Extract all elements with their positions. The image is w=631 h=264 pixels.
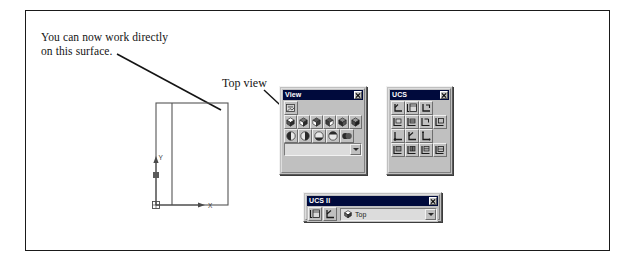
ucs-toolbar-inner: UCS bbox=[388, 88, 451, 173]
ucs2-toolbar-body: Top bbox=[307, 206, 438, 222]
view-ucs-icon[interactable] bbox=[433, 115, 447, 129]
view-combo[interactable] bbox=[284, 143, 362, 156]
ucs-row-4 bbox=[391, 143, 448, 157]
display-ucs-dialog-icon[interactable] bbox=[308, 207, 322, 221]
ucs-toolbar-body bbox=[390, 100, 449, 158]
ucs-previous-icon[interactable] bbox=[419, 101, 433, 115]
x-axis-rotate-ucs-icon[interactable] bbox=[391, 143, 405, 157]
origin-ucs-icon[interactable] bbox=[391, 129, 405, 143]
view-toolbar-body bbox=[283, 100, 363, 157]
cad-drawing-canvas: Y X bbox=[140, 96, 250, 216]
bottom-view-icon[interactable] bbox=[297, 115, 310, 129]
ucs2-toolbar-inner: UCS II bbox=[305, 194, 440, 220]
view-row-standard-views bbox=[284, 115, 362, 129]
nw-isometric-icon[interactable] bbox=[326, 129, 340, 143]
close-icon[interactable] bbox=[354, 91, 362, 99]
object-ucs-icon[interactable] bbox=[405, 115, 419, 129]
ne-isometric-icon[interactable] bbox=[312, 129, 326, 143]
ucs-preset-value: Top bbox=[353, 209, 425, 220]
axis-y-label: Y bbox=[159, 154, 164, 161]
display-ucs-dialog-icon[interactable] bbox=[405, 101, 419, 115]
ucs-preset-combo[interactable]: Top bbox=[340, 208, 437, 221]
top-view-icon[interactable] bbox=[284, 115, 297, 129]
named-views-icon[interactable] bbox=[284, 101, 298, 115]
ucs-toolbar-titlebar[interactable]: UCS bbox=[390, 90, 449, 100]
ucs2-toolbar[interactable]: UCS II bbox=[303, 192, 442, 222]
right-view-icon[interactable] bbox=[323, 115, 336, 129]
sw-isometric-icon[interactable] bbox=[284, 129, 298, 143]
camera-icon[interactable] bbox=[340, 129, 354, 143]
view-row-named-views bbox=[284, 101, 362, 115]
ucs2-toolbar-titlebar[interactable]: UCS II bbox=[307, 196, 438, 206]
chevron-down-icon[interactable] bbox=[425, 209, 436, 220]
se-isometric-icon[interactable] bbox=[298, 129, 312, 143]
axis-x-label: X bbox=[208, 202, 213, 209]
move-ucs-origin-icon[interactable] bbox=[323, 207, 337, 221]
ucs-toolbar[interactable]: UCS bbox=[386, 86, 453, 175]
view-toolbar-inner: View bbox=[281, 88, 365, 173]
left-view-icon[interactable] bbox=[310, 115, 323, 129]
z-axis-vector-ucs-icon[interactable] bbox=[405, 129, 419, 143]
ucs-icon[interactable] bbox=[391, 101, 405, 115]
ucs-row-1 bbox=[391, 101, 448, 115]
view-toolbar-titlebar[interactable]: View bbox=[283, 90, 363, 100]
view-toolbar-title: View bbox=[285, 90, 301, 100]
ucs-toolbar-title: UCS bbox=[392, 90, 407, 100]
ucs2-row: Top bbox=[308, 207, 437, 221]
back-view-icon[interactable] bbox=[349, 115, 362, 129]
ucs-preset-cube-icon bbox=[342, 209, 353, 219]
three-point-ucs-icon[interactable] bbox=[419, 129, 433, 143]
view-row-isometric-views bbox=[284, 129, 362, 143]
callout-note-text: You can now work directly on this surfac… bbox=[41, 30, 168, 58]
world-ucs-icon[interactable] bbox=[391, 115, 405, 129]
front-view-icon[interactable] bbox=[336, 115, 349, 129]
view-toolbar[interactable]: View bbox=[279, 86, 367, 175]
y-axis-rotate-ucs-icon[interactable] bbox=[405, 143, 419, 157]
top-view-label: Top view bbox=[222, 76, 267, 91]
ucs-row-2 bbox=[391, 115, 448, 129]
z-axis-rotate-ucs-icon[interactable] bbox=[419, 143, 433, 157]
chevron-down-icon[interactable] bbox=[350, 144, 361, 155]
ucs-row-3 bbox=[391, 129, 448, 143]
apply-ucs-icon[interactable] bbox=[433, 143, 447, 157]
close-icon[interactable] bbox=[440, 91, 448, 99]
ucs2-toolbar-title: UCS II bbox=[309, 196, 330, 206]
close-icon[interactable] bbox=[429, 197, 437, 205]
face-ucs-icon[interactable] bbox=[419, 115, 433, 129]
